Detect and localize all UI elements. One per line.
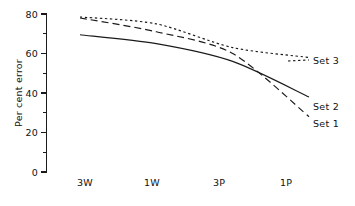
x-tick-label-3p: 3P [213, 177, 225, 188]
legend-label-set-3: Set 3 [313, 55, 339, 66]
y-tick-label-80: 80 [26, 9, 39, 20]
legend-label-set-1: Set 1 [313, 118, 339, 129]
series-line-set-1 [80, 18, 309, 117]
chart-figure: 80 60 40 20 0 Per cent error 3W 1W 3P 1P… [0, 0, 355, 206]
x-tick-label-3w: 3W [77, 177, 93, 188]
y-axis-major-ticks [41, 14, 47, 172]
y-tick-label-60: 60 [26, 48, 39, 59]
series-line-set-2 [80, 35, 309, 97]
legend-stub-set-3 [288, 60, 309, 61]
legend-label-set-2: Set 2 [313, 101, 339, 112]
x-tick-label-1w: 1W [144, 177, 160, 188]
x-tick-label-1p: 1P [280, 177, 292, 188]
y-tick-label-0: 0 [32, 167, 38, 178]
y-tick-label-40: 40 [26, 88, 39, 99]
chart-canvas: 80 60 40 20 0 Per cent error 3W 1W 3P 1P… [0, 0, 355, 206]
y-axis-title: Per cent error [13, 59, 24, 127]
y-tick-label-20: 20 [26, 127, 39, 138]
